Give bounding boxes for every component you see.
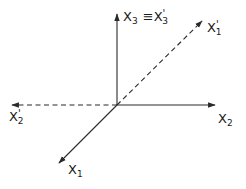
axes-diagram: X3 ≡X'3 X'1 X'2 X2 X1 [0, 0, 246, 189]
x3-label: X3 ≡X'3 [123, 10, 168, 26]
x2-label: X2 [218, 112, 233, 128]
x2-prime-label: X'2 [9, 110, 23, 126]
x1-prime-label: X'1 [207, 21, 221, 37]
x1-label: X1 [68, 163, 83, 179]
x1-axis [59, 105, 117, 163]
x1-prime-axis [117, 21, 202, 105]
